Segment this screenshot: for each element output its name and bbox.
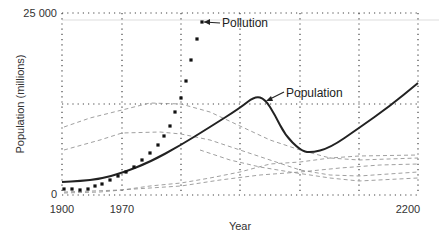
- pollution-point: [156, 143, 159, 146]
- x-axis-title: Year: [229, 220, 252, 231]
- pollution-point: [124, 170, 127, 173]
- pollution-point: [86, 187, 89, 190]
- pollution-point: [93, 184, 96, 187]
- pollution-point: [140, 158, 143, 161]
- pollution-point: [132, 165, 135, 168]
- pollution-point: [116, 174, 119, 177]
- horizontal-gridlines: [62, 13, 418, 195]
- y-tick-top: 25 000: [23, 7, 57, 19]
- pollution-label: Pollution: [222, 16, 268, 30]
- y-axis-title: Population (millions): [14, 54, 26, 153]
- pollution-point: [173, 110, 176, 113]
- chart: Pollution Population 25 000 0 1900 1970 …: [0, 0, 439, 231]
- population-line: [62, 83, 418, 182]
- pollution-point: [148, 151, 151, 154]
- pollution-point: [70, 187, 73, 190]
- pollution-point: [62, 187, 65, 190]
- x-tick-1970: 1970: [110, 203, 134, 215]
- pollution-point: [189, 58, 192, 61]
- pollution-point: [100, 182, 103, 185]
- pollution-point: [78, 188, 81, 191]
- pollution-point: [184, 79, 187, 82]
- population-arrowhead: [266, 96, 273, 101]
- pollution-point: [179, 96, 182, 99]
- pollution-point: [162, 134, 165, 137]
- population-label: Population: [286, 86, 343, 100]
- pollution-series: [62, 20, 203, 191]
- x-tick-1900: 1900: [50, 203, 74, 215]
- auxiliary-traces: [64, 103, 418, 193]
- y-tick-zero: 0: [51, 188, 57, 200]
- pollution-point: [195, 37, 198, 40]
- pollution-point: [200, 20, 203, 23]
- pollution-point: [168, 124, 171, 127]
- x-tick-2200: 2200: [396, 203, 420, 215]
- pollution-point: [108, 178, 111, 181]
